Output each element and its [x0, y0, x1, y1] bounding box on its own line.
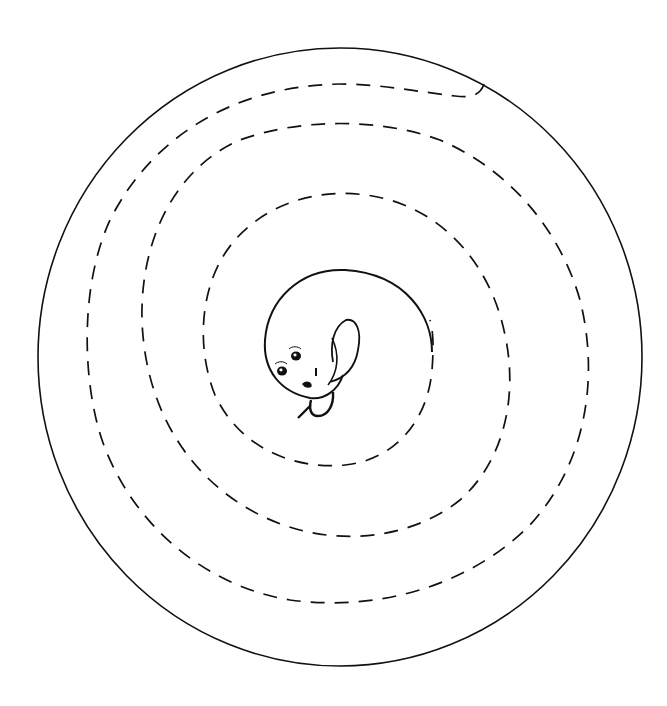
creature-mouth	[303, 382, 311, 387]
creature-body-outline	[265, 270, 432, 398]
spiral-maze-illustration	[0, 0, 667, 706]
outer-circle	[38, 48, 642, 666]
creature-eye-left	[275, 362, 287, 376]
spiral-dashed-path	[87, 84, 588, 603]
creature	[265, 270, 432, 418]
creature-eye-right	[289, 347, 301, 361]
drawing-canvas	[0, 0, 667, 706]
